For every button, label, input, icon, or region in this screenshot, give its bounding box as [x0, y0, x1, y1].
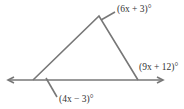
exterior-angle-label: (9x + 12)° [139, 62, 178, 72]
top-angle-label: (6x + 3)° [117, 4, 151, 14]
top-label-leader [101, 12, 115, 20]
triangle-sides [33, 16, 138, 80]
left-label-leader [46, 78, 57, 97]
triangle-diagram [0, 0, 184, 109]
left-angle-label: (4x − 3)° [59, 94, 93, 104]
